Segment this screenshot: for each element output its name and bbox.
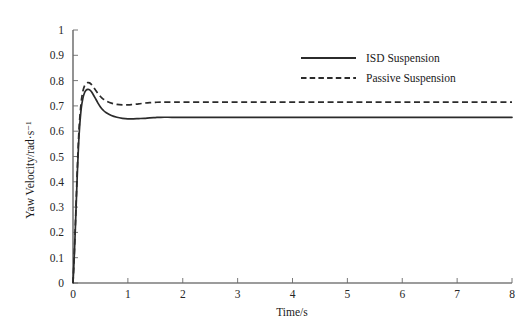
data-series-group <box>73 83 512 283</box>
x-tick-label: 7 <box>454 288 460 300</box>
x-tick-label: 5 <box>345 288 351 300</box>
x-tick-label: 3 <box>235 288 241 300</box>
y-axis-title: Yaw Velocity/rad·s⁻¹ <box>24 121 37 219</box>
x-tick-label: 2 <box>180 288 186 300</box>
y-tick-label: 0.8 <box>50 75 65 87</box>
yaw-velocity-chart-figure: 00.10.20.30.40.50.60.70.80.91 012345678 … <box>0 0 532 330</box>
y-tick-label: 0 <box>58 277 64 289</box>
series-line-isd-suspension <box>73 89 512 283</box>
chart-canvas: 00.10.20.30.40.50.60.70.80.91 012345678 … <box>0 0 532 330</box>
x-tick-label: 1 <box>125 288 131 300</box>
x-axis-title: Time/s <box>276 306 308 318</box>
y-tick-label: 0.7 <box>50 100 65 112</box>
series-line-passive-suspension <box>73 83 512 283</box>
y-tick-label: 0.5 <box>50 151 65 163</box>
axes-group <box>73 30 512 283</box>
x-tick-label: 8 <box>509 288 515 300</box>
y-tick-label: 0.9 <box>50 49 65 61</box>
legend-label-isd-suspension: ISD Suspension <box>366 52 440 65</box>
y-tick-label: 0.2 <box>50 226 65 238</box>
y-tick-label: 1 <box>58 24 64 36</box>
x-tick-label: 6 <box>399 288 405 300</box>
legend: ISD Suspension Passive Suspension <box>301 52 456 85</box>
x-tick-label: 0 <box>70 288 76 300</box>
y-tick-label: 0.1 <box>50 252 65 264</box>
x-tick-label: 4 <box>290 288 296 300</box>
y-tick-label: 0.4 <box>50 176 65 188</box>
y-tick-label: 0.6 <box>50 125 65 137</box>
y-tick-label: 0.3 <box>50 201 65 213</box>
legend-label-passive-suspension: Passive Suspension <box>366 72 456 85</box>
x-axis-ticks: 012345678 <box>70 278 515 300</box>
